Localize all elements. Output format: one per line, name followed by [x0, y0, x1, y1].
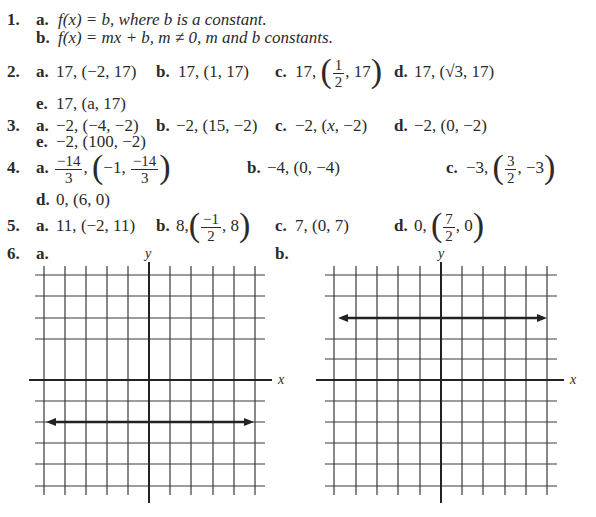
graph-b: [0, 0, 596, 517]
right-arrow-icon: [537, 314, 547, 322]
left-arrow-icon: [338, 314, 348, 322]
graph-b-axes: [316, 262, 564, 503]
graph-b-line-arrow: [338, 314, 547, 322]
